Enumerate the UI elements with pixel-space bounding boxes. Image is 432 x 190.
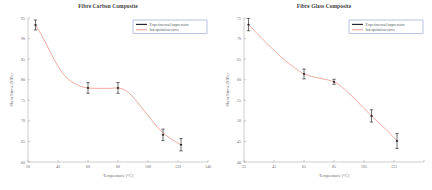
y-tick-label: 75: [21, 98, 25, 103]
x-axis-ticks: 25456585105125: [242, 160, 424, 169]
data-point-errorbar: [370, 110, 373, 122]
y-tick-label: 70: [237, 36, 241, 41]
x-tick-label: 80: [116, 164, 120, 169]
legend: Experimental impressionInterpolation cur…: [349, 20, 423, 34]
y-axis-ticks: 6065707580859095: [21, 16, 30, 165]
y-axis-label: Shear Stress (MPa): [9, 73, 14, 107]
chart-panel-carbon: Fibre Carbon Composite 60657075808590952…: [0, 0, 216, 190]
y-axis-label: Shear Stress (MPa): [225, 73, 230, 107]
y-tick-label: 45: [237, 139, 241, 144]
x-tick-label: 40: [56, 164, 60, 169]
x-axis-label: Temperature (°C): [103, 173, 134, 178]
legend: Experimental impressionInterpolation cur…: [133, 20, 207, 34]
legend-label: Experimental impression: [150, 23, 189, 27]
data-point-errorbar: [302, 69, 305, 79]
x-axis-label: Temperature (°C): [319, 173, 350, 178]
y-tick-label: 80: [21, 77, 25, 82]
x-tick-label: 45: [272, 164, 276, 169]
x-tick-label: 120: [175, 164, 181, 169]
data-point-errorbar: [179, 139, 182, 151]
data-point-errorbar: [34, 20, 37, 30]
y-tick-label: 75: [237, 16, 241, 21]
data-point-errorbar: [247, 18, 250, 30]
x-tick-label: 20: [26, 164, 30, 169]
legend-label: Experimental impression: [366, 23, 405, 27]
interpolation-curve: [249, 25, 398, 141]
x-tick-label: 140: [205, 164, 211, 169]
x-tick-label: 100: [145, 164, 151, 169]
y-tick-label: 70: [21, 118, 25, 123]
plot-area-carbon: 606570758085909520406080100120140Tempera…: [0, 0, 216, 190]
chart-svg-glass: 404550556065707525456585105125Temperatur…: [216, 0, 432, 190]
data-point-errorbar: [395, 134, 398, 149]
experimental-points: [34, 20, 183, 151]
y-tick-label: 40: [237, 160, 241, 165]
x-tick-label: 105: [361, 164, 367, 169]
y-tick-label: 90: [21, 36, 25, 41]
y-tick-label: 50: [237, 118, 241, 123]
chart-panel-glass: Fibre Glass Composite 404550556065707525…: [216, 0, 432, 190]
y-axis-ticks: 4045505560657075: [237, 16, 246, 165]
data-point-errorbar: [161, 129, 164, 141]
experimental-points: [247, 18, 399, 148]
y-tick-label: 65: [237, 57, 241, 62]
y-tick-label: 60: [237, 77, 241, 82]
x-tick-label: 25: [242, 164, 246, 169]
figure-container: Fibre Carbon Composite 60657075808590952…: [0, 0, 432, 190]
chart-svg-carbon: 606570758085909520406080100120140Tempera…: [0, 0, 216, 190]
y-tick-label: 85: [21, 57, 25, 62]
data-point-errorbar: [332, 79, 335, 84]
y-tick-label: 60: [21, 160, 25, 165]
x-tick-label: 125: [391, 164, 397, 169]
x-axis-ticks: 20406080100120140: [26, 160, 211, 169]
x-tick-label: 85: [332, 164, 336, 169]
interpolation-curve: [36, 25, 182, 145]
legend-label: Interpolation curve: [366, 28, 396, 32]
y-tick-label: 65: [21, 139, 25, 144]
x-tick-label: 65: [302, 164, 306, 169]
x-tick-label: 60: [86, 164, 90, 169]
legend-label: Interpolation curve: [150, 28, 180, 32]
plot-area-glass: 404550556065707525456585105125Temperatur…: [216, 0, 432, 190]
y-tick-label: 55: [237, 98, 241, 103]
y-tick-label: 95: [21, 16, 25, 21]
